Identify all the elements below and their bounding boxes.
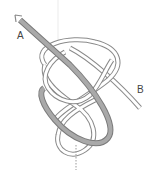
label-end-a: A — [17, 30, 24, 41]
label-end-b: B — [137, 84, 144, 95]
